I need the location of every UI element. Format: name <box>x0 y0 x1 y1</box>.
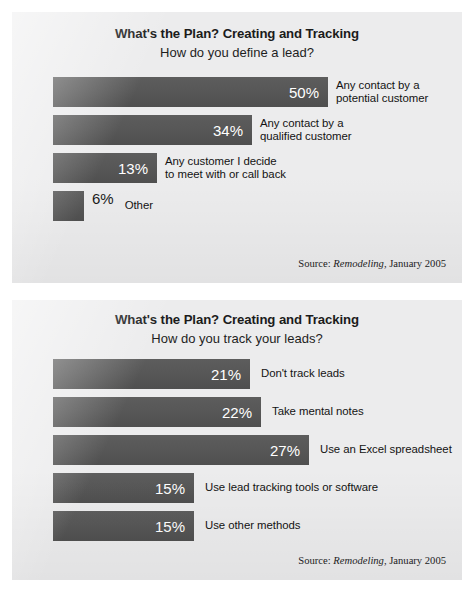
bar-category-label: Take mental notes <box>261 397 364 427</box>
bar-value-label: 15% <box>155 481 194 496</box>
bar-value-label: 50% <box>289 85 328 100</box>
chart-2-title: What's the Plan? Creating and Tracking <box>12 312 462 328</box>
bar-row: 50% Any contact by a potential customer <box>12 77 462 107</box>
bar-row: 22% Take mental notes <box>12 397 462 427</box>
bar-segment: 21% <box>53 359 250 389</box>
chart-2-subtitle: How do you track your leads? <box>12 331 462 347</box>
bar-category-label: Don't track leads <box>250 359 345 389</box>
bar-segment: 50% <box>53 77 328 107</box>
bar-segment: 13% <box>53 153 157 183</box>
bar-value-label: 21% <box>211 367 250 382</box>
chart-1-header: What's the Plan? Creating and Tracking H… <box>12 12 462 61</box>
bar-category-label: Other <box>114 191 153 221</box>
source-prefix: Source: <box>298 258 333 269</box>
bar-value-label: 6% <box>84 191 114 221</box>
bar-category-label: Any contact by a qualified customer <box>252 115 352 145</box>
source-prefix: Source: <box>298 555 333 566</box>
bar-category-label: Any customer I decide to meet with or ca… <box>157 153 286 183</box>
source-suffix: , January 2005 <box>384 555 446 566</box>
bar-row: 15% Use lead tracking tools or software <box>12 473 462 503</box>
chart-2-bars: 21% Don't track leads 22% Take mental no… <box>12 359 462 541</box>
chart-1-bars: 50% Any contact by a potential customer … <box>12 77 462 221</box>
source-publication: Remodeling <box>333 258 384 269</box>
bar-row: 21% Don't track leads <box>12 359 462 389</box>
bar-segment: 15% <box>53 473 194 503</box>
bar-row: 15% Use other methods <box>12 511 462 541</box>
bar-segment: 27% <box>53 435 309 465</box>
chart-1-title: What's the Plan? Creating and Tracking <box>12 26 462 42</box>
bar-category-label: Use lead tracking tools or software <box>194 473 378 503</box>
bar-value-label: 34% <box>213 123 252 138</box>
bar-segment: 22% <box>53 397 261 427</box>
bar-row: 6% Other <box>12 191 462 221</box>
bar-value-label: 13% <box>118 161 157 176</box>
bar-segment: 15% <box>53 511 194 541</box>
bar-row: 27% Use an Excel spreadsheet <box>12 435 462 465</box>
bar-category-label: Use an Excel spreadsheet <box>309 435 452 465</box>
bar-value-label: 27% <box>270 443 309 458</box>
bar-row: 34% Any contact by a qualified customer <box>12 115 462 145</box>
chart-2-header: What's the Plan? Creating and Tracking H… <box>12 300 462 347</box>
page-root: What's the Plan? Creating and Tracking H… <box>0 0 472 591</box>
bar-category-label: Use other methods <box>194 511 300 541</box>
source-suffix: , January 2005 <box>384 258 446 269</box>
chart-panel-2: What's the Plan? Creating and Tracking H… <box>12 300 462 580</box>
bar-segment <box>53 191 84 221</box>
chart-1-subtitle: How do you define a lead? <box>12 45 462 61</box>
bar-category-label: Any contact by a potential customer <box>328 77 428 107</box>
chart-2-source: Source: Remodeling, January 2005 <box>298 555 446 566</box>
bar-value-label: 15% <box>155 519 194 534</box>
bar-segment: 34% <box>53 115 252 145</box>
source-publication: Remodeling <box>333 555 384 566</box>
bar-row: 13% Any customer I decide to meet with o… <box>12 153 462 183</box>
chart-1-source: Source: Remodeling, January 2005 <box>298 258 446 269</box>
chart-panel-1: What's the Plan? Creating and Tracking H… <box>12 12 462 283</box>
bar-value-label: 22% <box>222 405 261 420</box>
